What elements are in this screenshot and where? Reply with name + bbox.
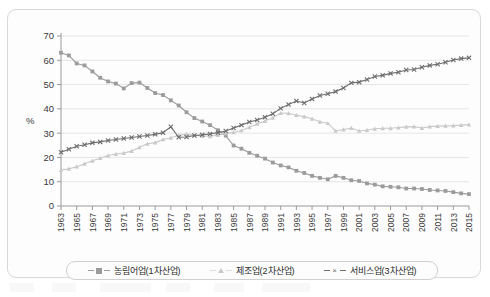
data-point: [342, 176, 346, 180]
y-axis-title: %: [26, 115, 35, 126]
data-point: [106, 80, 110, 84]
data-point: [341, 86, 345, 90]
x-tick-label: 1981: [197, 213, 207, 232]
page-artifact: [10, 283, 310, 292]
legend-item-tertiary[interactable]: × 서비스업(3차산업): [324, 264, 417, 277]
data-point: [232, 144, 236, 148]
x-tick-label: 2001: [354, 213, 364, 232]
legend-item-secondary[interactable]: 제조업(2차산업): [210, 264, 295, 277]
series-1: [59, 51, 471, 196]
x-tick-label: 1985: [229, 213, 239, 232]
x-tick-label: 1969: [103, 213, 113, 232]
data-point: [428, 188, 432, 192]
data-point: [373, 183, 377, 187]
data-point: [459, 191, 463, 195]
x-tick-label: 1965: [72, 213, 82, 232]
data-point: [271, 161, 275, 165]
x-tick-label: 1967: [88, 213, 98, 232]
x-tick-label: 1991: [276, 213, 286, 232]
x-tick-label: 2003: [370, 213, 380, 232]
data-point: [381, 184, 385, 188]
x-tick-label: 2007: [401, 213, 411, 232]
data-point: [90, 70, 94, 74]
y-tick-label: 60: [43, 55, 54, 66]
data-point: [130, 81, 134, 85]
y-tick-label: 0: [49, 200, 54, 211]
data-point: [271, 112, 275, 116]
data-point: [436, 189, 440, 193]
data-point: [192, 116, 196, 120]
data-point: [412, 187, 416, 191]
y-tick-label: 50: [43, 79, 54, 90]
legend-marker-triangle-icon: [210, 266, 232, 276]
data-point: [365, 182, 369, 186]
x-tick-label: 1993: [292, 213, 302, 232]
y-axis-ticks: [57, 36, 61, 206]
series-line: [61, 53, 469, 194]
x-tick-label: 1979: [182, 213, 192, 232]
data-series-group: [59, 51, 471, 196]
data-point: [75, 62, 79, 66]
data-point: [247, 151, 251, 155]
legend-marker-square-icon: [88, 266, 110, 276]
chart-legend: 농림어업(1차산업) 제조업(2차산업) × 서비스업(3차산업): [66, 261, 438, 280]
data-point: [310, 97, 314, 101]
data-point: [404, 187, 408, 191]
y-tick-label: 70: [43, 30, 54, 41]
data-point: [357, 179, 361, 183]
x-tick-label: 2005: [386, 213, 396, 232]
data-point: [467, 192, 471, 196]
x-tick-label: 1989: [260, 213, 270, 232]
data-point: [287, 165, 291, 169]
x-tick-label: 1963: [56, 213, 66, 232]
x-tick-label: 1973: [135, 213, 145, 232]
legend-item-primary[interactable]: 농림어업(1차산업): [88, 264, 181, 277]
data-point: [169, 125, 173, 129]
data-point: [286, 102, 290, 106]
x-tick-label: 1983: [213, 213, 223, 232]
legend-label-primary: 농림어업(1차산업): [114, 264, 181, 277]
x-tick-label: 1997: [323, 213, 333, 232]
x-tick-label: 2013: [449, 213, 459, 232]
x-axis-ticks: [61, 206, 469, 210]
x-tick-label: 1977: [166, 213, 176, 232]
x-tick-label: 1971: [119, 213, 129, 232]
data-point: [114, 82, 118, 86]
x-tick-label: 1995: [307, 213, 317, 232]
chart-plot-area: 010203040506070 196319651967196919711973…: [8, 10, 482, 279]
data-point: [122, 87, 126, 91]
chart-card: 010203040506070 196319651967196919711973…: [7, 9, 481, 278]
y-axis-labels: 010203040506070: [43, 30, 54, 211]
data-point: [83, 63, 87, 67]
x-tick-label: 2009: [417, 213, 427, 232]
data-point: [420, 187, 424, 191]
data-point: [318, 176, 322, 180]
data-point: [310, 174, 314, 178]
y-tick-label: 40: [43, 103, 54, 114]
data-point: [349, 178, 353, 182]
data-point: [145, 86, 149, 90]
data-point: [59, 51, 63, 55]
x-axis-labels: 1963196519671969197119731975197719791981…: [56, 213, 474, 232]
data-point: [263, 157, 267, 161]
data-point: [161, 93, 165, 97]
data-point: [240, 147, 244, 151]
y-tick-label: 20: [43, 152, 54, 163]
legend-label-secondary: 제조업(2차산업): [236, 264, 295, 277]
data-point: [138, 81, 142, 85]
series-2: [59, 111, 471, 172]
data-point: [153, 91, 157, 95]
data-point: [279, 164, 283, 168]
data-point: [208, 123, 212, 127]
y-tick-label: 10: [43, 176, 54, 187]
line-chart-svg: 010203040506070 196319651967196919711973…: [8, 10, 482, 279]
data-point: [169, 98, 173, 102]
data-point: [271, 116, 275, 120]
x-tick-label: 1999: [339, 213, 349, 232]
data-point: [177, 104, 181, 108]
data-point: [294, 169, 298, 173]
data-point: [200, 120, 204, 124]
data-point: [326, 177, 330, 181]
legend-marker-x-icon: ×: [324, 266, 346, 276]
data-point: [185, 110, 189, 114]
